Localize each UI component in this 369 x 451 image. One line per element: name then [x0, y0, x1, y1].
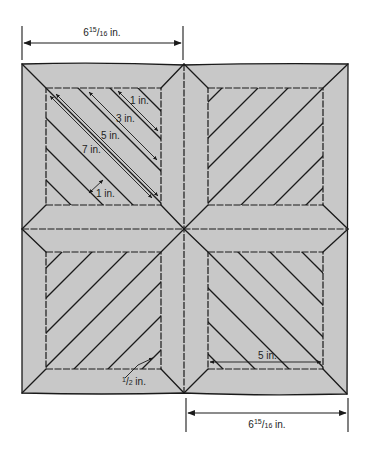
strip-label-5in: 5 in. [101, 130, 120, 141]
bottom-dimension: 615/16 in. [186, 398, 348, 432]
top-dimension: 615/16 in. [22, 26, 183, 60]
five-inch-label: 5 in. [258, 350, 277, 361]
strip-spacing-label: 1 in. [96, 188, 115, 199]
strip-label-1in: 1 in. [130, 95, 149, 106]
quilt-diagram: 615/16 in. [0, 0, 369, 451]
bottom-dimension-label: 615/16 in. [248, 418, 285, 430]
top-dimension-label: 615/16 in. [83, 26, 120, 38]
half-inch-label: 1/2 in. [122, 376, 146, 387]
strip-label-3in: 3 in. [116, 113, 135, 124]
strip-label-7in: 7 in. [82, 144, 101, 155]
